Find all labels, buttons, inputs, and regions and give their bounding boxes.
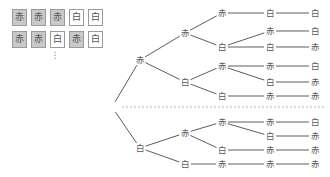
tree-node-white: 白: [218, 146, 227, 155]
tree-edge: [190, 16, 216, 30]
tree-diagram: 赤赤赤白白白赤白白赤白赤赤白白赤白赤赤白赤赤赤白白赤白赤赤白赤赤赤: [0, 0, 330, 177]
tree-node-white: 白: [311, 27, 320, 36]
tree-node-red: 赤: [218, 9, 227, 18]
tree-node-red: 赤: [266, 146, 275, 155]
tree-node-red: 赤: [218, 118, 227, 127]
tree-node-white: 白: [266, 78, 275, 87]
tree-node-red: 赤: [218, 160, 227, 169]
tree-node-white: 白: [311, 9, 320, 18]
tree-node-white: 白: [266, 9, 275, 18]
tree-node-white: 白: [136, 144, 145, 153]
tree-node-red: 赤: [266, 92, 275, 101]
tree-node-red: 赤: [266, 118, 275, 127]
tree-node-red: 赤: [181, 29, 190, 38]
probability-tree-figure: 赤赤赤白白赤赤白赤白 ⋮ 赤赤赤白白白赤白白赤白赤赤白白赤白赤赤白赤赤赤白白赤白…: [0, 0, 330, 177]
tree-edge: [115, 65, 137, 102]
tree-node-red: 赤: [311, 132, 320, 141]
tree-node-white: 白: [181, 78, 190, 87]
tree-edges: [0, 0, 330, 177]
tree-node-white: 白: [218, 92, 227, 101]
tree-node-red: 赤: [311, 146, 320, 155]
tree-edge: [191, 84, 217, 94]
tree-node-red: 赤: [181, 129, 190, 138]
tree-edge: [115, 112, 136, 143]
tree-edge: [191, 35, 217, 45]
tree-node-red: 赤: [311, 78, 320, 87]
tree-node-red: 赤: [311, 43, 320, 52]
tree-node-white: 白: [266, 132, 275, 141]
tree-node-red: 赤: [266, 27, 275, 36]
tree-edge: [228, 68, 265, 80]
tree-edge: [191, 68, 217, 79]
tree-node-red: 赤: [311, 92, 320, 101]
tree-node-red: 赤: [266, 62, 275, 71]
tree-node-white: 白: [311, 118, 320, 127]
tree-node-red: 赤: [136, 56, 145, 65]
tree-node-red: 赤: [266, 160, 275, 169]
tree-edge: [228, 124, 264, 135]
tree-edge: [146, 150, 180, 162]
tree-node-white: 白: [181, 160, 190, 169]
tree-edge: [191, 124, 216, 132]
tree-edge: [190, 136, 216, 148]
tree-node-red: 赤: [311, 160, 320, 169]
tree-edge: [228, 33, 265, 45]
tree-node-red: 赤: [218, 62, 227, 71]
tree-node-white: 白: [218, 43, 227, 52]
tree-node-white: 白: [311, 62, 320, 71]
tree-edge: [145, 36, 180, 57]
tree-node-white: 白: [266, 43, 275, 52]
tree-edge: [146, 135, 180, 146]
tree-edge: [145, 63, 179, 80]
